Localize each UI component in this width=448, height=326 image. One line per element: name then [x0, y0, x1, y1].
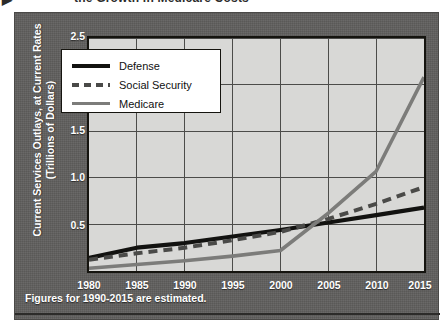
legend-label-defense: Defense: [119, 60, 160, 72]
y-tick-2.5: 2.5: [51, 30, 85, 42]
chart-footnote-text: Figures for 1990-2015 are estimated.: [15, 292, 207, 304]
legend-label-social-security: Social Security: [119, 79, 192, 91]
legend-label-medicare: Medicare: [119, 98, 164, 110]
chart-footnote: Figures for 1990-2015 are estimated.: [15, 287, 440, 309]
footnote-rule: [15, 313, 440, 315]
chart-legend: Defense Social Security Medicare: [61, 49, 221, 113]
legend-item-medicare: Medicare: [72, 94, 220, 113]
headline-text: the Growth in Medicare Costs: [74, 0, 249, 5]
y-tick-1.5: 1.5: [51, 124, 85, 136]
y-tick-1.0: 1.0: [51, 171, 85, 183]
legend-swatch-medicare: [72, 98, 110, 110]
headline-bullet-icon: ▶: [2, 0, 12, 7]
chart-figure: ▶ the Growth in Medicare Costs Current S…: [0, 0, 448, 326]
y-tick-0.5: 0.5: [51, 219, 85, 231]
legend-swatch-social-security: [72, 79, 110, 91]
legend-item-social-security: Social Security: [72, 75, 220, 94]
legend-swatch-defense: [72, 60, 110, 72]
legend-item-defense: Defense: [72, 56, 220, 75]
series-line-defense: [89, 208, 424, 258]
figure-panel: Current Services Outlays, at Current Rat…: [14, 12, 439, 320]
